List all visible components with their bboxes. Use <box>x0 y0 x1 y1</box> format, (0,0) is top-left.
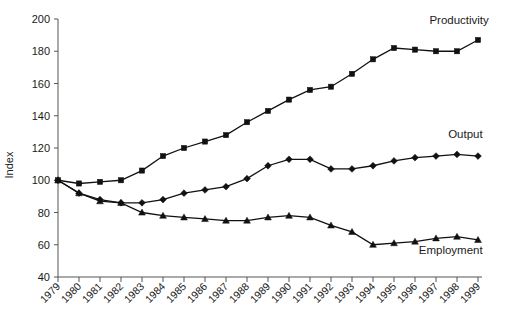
data-point-marker <box>181 145 186 150</box>
data-point-marker <box>349 166 356 173</box>
series-label-employment: Employment <box>419 244 484 256</box>
data-point-marker <box>433 153 440 160</box>
y-axis-title-text: Index <box>3 151 15 178</box>
chart-axes <box>54 19 482 282</box>
x-tick-label: 1999 <box>457 280 482 305</box>
x-tick-label: 1988 <box>226 280 251 305</box>
y-tick-label: 40 <box>38 271 50 283</box>
x-axis-tick-labels: 1979198019811982198319841985198619871988… <box>37 280 482 305</box>
data-point-marker <box>454 49 459 54</box>
data-point-marker <box>328 84 333 89</box>
x-tick-label: 1979 <box>37 280 62 305</box>
y-tick-label: 120 <box>32 142 50 154</box>
series-employment <box>55 177 482 248</box>
data-point-marker <box>307 156 314 163</box>
data-point-marker <box>475 37 480 42</box>
chart-container: 406080100120140160180200 197919801981198… <box>0 0 508 328</box>
x-tick-label: 1998 <box>436 280 461 305</box>
series-label-output: Output <box>448 128 483 140</box>
x-tick-label: 1985 <box>163 280 188 305</box>
data-point-marker <box>139 199 146 206</box>
x-tick-label: 1992 <box>310 280 335 305</box>
data-point-marker <box>370 162 377 169</box>
y-axis-tick-labels: 406080100120140160180200 <box>32 13 50 283</box>
data-point-marker <box>412 154 419 161</box>
y-tick-label: 180 <box>32 45 50 57</box>
x-tick-label: 1995 <box>373 280 398 305</box>
data-point-marker <box>76 181 81 186</box>
data-point-marker <box>244 175 251 182</box>
data-point-marker <box>328 166 335 173</box>
x-tick-label: 1981 <box>79 280 104 305</box>
data-point-marker <box>223 133 228 138</box>
y-tick-label: 100 <box>32 174 50 186</box>
data-point-marker <box>391 158 398 165</box>
data-point-marker <box>265 162 272 169</box>
line-chart: 406080100120140160180200 197919801981198… <box>0 0 508 328</box>
y-tick-label: 140 <box>32 110 50 122</box>
data-point-marker <box>265 108 270 113</box>
x-tick-label: 1994 <box>352 280 377 305</box>
data-point-marker <box>370 57 375 62</box>
x-tick-label: 1980 <box>58 280 83 305</box>
y-tick-label: 80 <box>38 207 50 219</box>
data-point-marker <box>223 183 230 190</box>
data-point-marker <box>286 97 291 102</box>
caption-strip <box>0 323 508 328</box>
x-tick-label: 1987 <box>205 280 230 305</box>
chart-series-group <box>55 37 482 247</box>
x-tick-label: 1997 <box>415 280 440 305</box>
x-tick-label: 1986 <box>184 280 209 305</box>
data-point-marker <box>454 151 461 158</box>
series-label-productivity: Productivity <box>429 14 489 26</box>
data-point-marker <box>181 190 188 197</box>
data-point-marker <box>412 47 417 52</box>
x-tick-label: 1983 <box>121 280 146 305</box>
data-point-marker <box>307 87 312 92</box>
x-tick-label: 1989 <box>247 280 272 305</box>
y-tick-label: 200 <box>32 13 50 25</box>
data-point-marker <box>475 153 482 160</box>
x-tick-label: 1984 <box>142 280 167 305</box>
data-point-marker <box>349 71 354 76</box>
x-tick-label: 1982 <box>100 280 125 305</box>
data-point-marker <box>139 168 144 173</box>
x-tick-label: 1990 <box>268 280 293 305</box>
x-tick-label: 1996 <box>394 280 419 305</box>
data-point-marker <box>97 179 102 184</box>
series-line <box>58 180 478 245</box>
data-point-marker <box>118 178 123 183</box>
x-tick-label: 1991 <box>289 280 314 305</box>
x-tick-label: 1993 <box>331 280 356 305</box>
data-point-marker <box>202 187 209 194</box>
data-point-marker <box>244 120 249 125</box>
data-point-marker <box>160 196 167 203</box>
y-axis-title: Index <box>3 151 15 178</box>
data-point-marker <box>286 156 293 163</box>
data-point-marker <box>391 45 396 50</box>
data-point-marker <box>202 139 207 144</box>
data-point-marker <box>433 49 438 54</box>
y-tick-label: 60 <box>38 239 50 251</box>
data-point-marker <box>160 153 165 158</box>
y-tick-label: 160 <box>32 78 50 90</box>
